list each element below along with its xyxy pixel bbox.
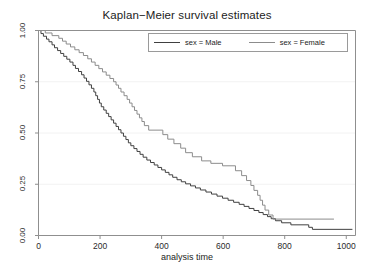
x-tick-label: 200 — [80, 241, 120, 251]
legend-label-male: sex = Male — [185, 38, 221, 47]
x-tick-label: 0 — [19, 241, 59, 251]
y-tick-label: 0.25 — [18, 172, 27, 196]
y-tick-label: 0.50 — [18, 121, 27, 145]
survival-curves — [39, 31, 353, 230]
legend-entry-female: sex = Female — [244, 38, 347, 47]
legend-label-female: sex = Female — [280, 38, 325, 47]
survival-curve-female — [39, 31, 334, 220]
kaplan-meier-figure: Kaplan−Meier survival estimates 0.000.25… — [0, 0, 374, 270]
legend-line-swatch-female — [249, 42, 275, 43]
x-axis-title: analysis time — [0, 252, 374, 262]
gridlines — [39, 31, 356, 236]
x-tick-label: 400 — [142, 241, 182, 251]
x-tick-label: 600 — [203, 241, 243, 251]
y-tick-label: 0.75 — [18, 69, 27, 93]
chart-legend: sex = Male sex = Female — [148, 33, 348, 52]
x-tick-label: 800 — [265, 241, 305, 251]
legend-line-swatch-male — [154, 42, 180, 43]
y-tick-label: 1.00 — [18, 18, 27, 42]
axis-ticks — [35, 31, 346, 240]
survival-curve-male — [39, 31, 353, 230]
legend-entry-male: sex = Male — [149, 38, 244, 47]
x-tick-label: 1000 — [326, 241, 366, 251]
